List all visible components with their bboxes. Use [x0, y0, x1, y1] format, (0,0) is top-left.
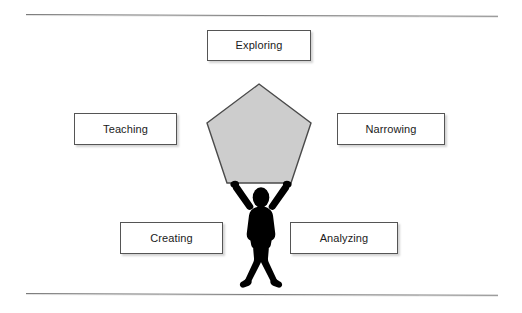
label-box-exploring-text: Exploring [236, 40, 283, 51]
pentagon-shape [205, 82, 313, 186]
label-box-teaching-text: Teaching [103, 124, 148, 135]
label-box-analyzing-text: Analyzing [320, 233, 369, 244]
label-box-creating[interactable]: Creating [120, 222, 223, 254]
label-box-creating-text: Creating [150, 233, 192, 244]
label-box-exploring[interactable]: Exploring [207, 30, 311, 61]
diagram-canvas: Exploring Teaching Narrowing Creating An… [0, 0, 522, 313]
bottom-divider-rule [26, 293, 498, 296]
label-box-analyzing[interactable]: Analyzing [290, 222, 398, 254]
label-box-narrowing[interactable]: Narrowing [337, 113, 445, 145]
top-divider-rule [26, 14, 498, 17]
label-box-narrowing-text: Narrowing [365, 124, 416, 135]
label-box-teaching[interactable]: Teaching [74, 113, 177, 145]
stick-figure [228, 178, 294, 288]
